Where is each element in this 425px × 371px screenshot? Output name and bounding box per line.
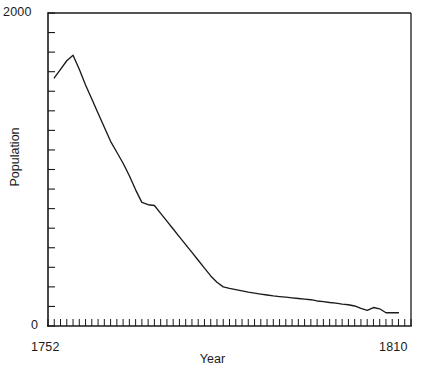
y-axis-ticks <box>48 13 55 326</box>
x-axis-ticks <box>48 319 411 326</box>
chart-plot-area <box>0 0 425 371</box>
y-axis-min-label: 0 <box>31 318 38 332</box>
y-axis-title: Population <box>8 112 22 202</box>
plot-frame <box>48 13 411 326</box>
x-axis-title: Year <box>0 352 425 366</box>
chart-figure: 2000 0 1752 1810 Year Population <box>0 0 425 371</box>
y-axis-max-label: 2000 <box>3 5 32 19</box>
population-line-series <box>54 55 398 312</box>
